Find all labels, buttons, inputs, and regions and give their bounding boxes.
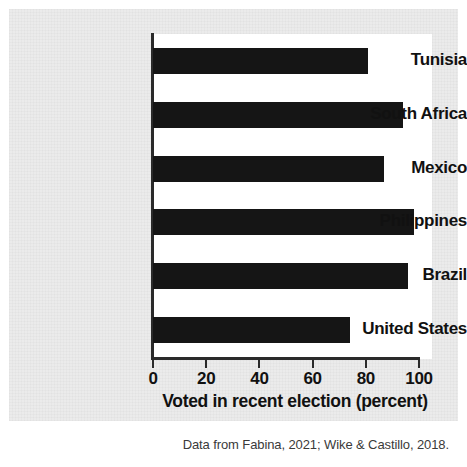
x-tick: [365, 360, 367, 368]
y-axis-line: [151, 33, 154, 360]
x-tick-label: 40: [250, 369, 268, 389]
x-tick: [152, 360, 154, 368]
x-tick-label: 20: [197, 369, 215, 389]
category-label: Brazil: [322, 265, 467, 285]
source-caption: Data from Fabina, 2021; Wike & Castillo,…: [0, 437, 458, 452]
figure: 020406080100 TunisiaSouth AfricaMexicoPh…: [0, 0, 467, 467]
x-tick: [312, 360, 314, 368]
x-tick-label: 60: [303, 369, 321, 389]
category-label: Tunisia: [322, 50, 467, 70]
x-tick-label: 100: [405, 369, 432, 389]
x-axis-title: Voted in recent election (percent): [140, 391, 450, 412]
x-tick: [418, 360, 420, 368]
x-tick-label: 0: [148, 369, 157, 389]
plot-area: [153, 34, 432, 359]
x-tick: [205, 360, 207, 368]
bar: [153, 317, 350, 343]
x-axis-line: [151, 357, 420, 360]
x-tick: [258, 360, 260, 368]
category-label: United States: [322, 319, 467, 339]
x-tick-label: 80: [357, 369, 375, 389]
category-label: Philippines: [322, 211, 467, 231]
category-label: South Africa: [322, 104, 467, 124]
category-label: Mexico: [322, 158, 467, 178]
